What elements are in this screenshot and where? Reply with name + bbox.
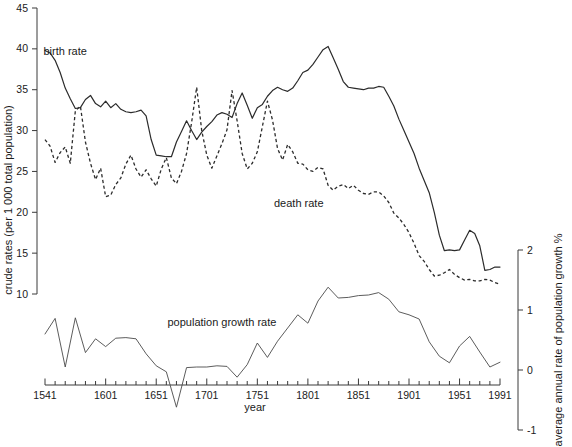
left-axis-tick-labels: 4540353025201510 xyxy=(16,2,28,300)
bottom-tick-label: 1851 xyxy=(347,389,371,401)
death-rate-label: death rate xyxy=(274,197,324,209)
left-tick-label: 25 xyxy=(16,165,28,177)
left-tick-label: 45 xyxy=(16,2,28,14)
left-axis-title: crude rates (per 1 000 total population) xyxy=(2,105,14,295)
bottom-axis-ticks xyxy=(45,379,500,386)
bottom-tick-label: 1701 xyxy=(195,389,219,401)
left-tick-label: 10 xyxy=(16,288,28,300)
left-tick-label: 30 xyxy=(16,124,28,136)
bottom-axis-title: year xyxy=(244,401,266,413)
right-tick-label: -1 xyxy=(527,424,536,436)
bottom-tick-label: 1991 xyxy=(488,389,512,401)
right-axis-ticks xyxy=(518,250,523,430)
right-tick-label: 0 xyxy=(527,364,533,376)
bottom-tick-label: 1751 xyxy=(246,389,270,401)
right-axis-title: average annual rate of population growth… xyxy=(552,233,564,446)
left-tick-label: 35 xyxy=(16,83,28,95)
bottom-tick-label: 1651 xyxy=(145,389,169,401)
right-axis: 210-1 average annual rate of population … xyxy=(518,233,564,446)
population-growth-rate-label: population growth rate xyxy=(168,316,277,328)
right-tick-label: 2 xyxy=(527,244,533,256)
death-rate-line xyxy=(45,87,500,284)
bottom-axis-tick-labels: 1541160116511701175118011851190119511991 xyxy=(33,389,512,401)
bottom-tick-label: 1801 xyxy=(296,389,320,401)
left-axis: 4540353025201510 crude rates (per 1 000 … xyxy=(2,2,37,300)
right-tick-label: 1 xyxy=(527,304,533,316)
left-tick-label: 20 xyxy=(16,206,28,218)
chart-canvas: 4540353025201510 crude rates (per 1 000 … xyxy=(0,0,572,447)
annotation-layer: birth rate death rate population growth … xyxy=(44,45,324,328)
bottom-axis: 1541160116511701175118011851190119511991… xyxy=(33,379,512,414)
bottom-tick-label: 1541 xyxy=(33,389,57,401)
left-tick-label: 15 xyxy=(16,247,28,259)
bottom-tick-label: 1601 xyxy=(94,389,118,401)
population-rates-chart: 4540353025201510 crude rates (per 1 000 … xyxy=(0,0,572,447)
right-axis-tick-labels: 210-1 xyxy=(527,244,536,436)
birth-rate-label: birth rate xyxy=(44,45,87,57)
series-layer xyxy=(45,46,500,407)
left-axis-ticks xyxy=(32,8,37,294)
birth-rate-line xyxy=(45,46,500,270)
left-tick-label: 40 xyxy=(16,42,28,54)
bottom-tick-label: 1951 xyxy=(448,389,472,401)
bottom-tick-label: 1901 xyxy=(397,389,421,401)
